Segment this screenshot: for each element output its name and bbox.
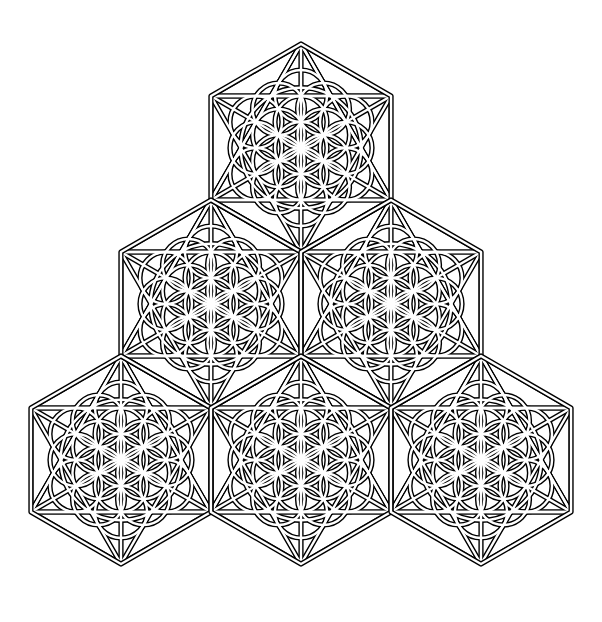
hexagon-tile-middle-left bbox=[121, 200, 301, 408]
hexagon-tile-bottom-right bbox=[391, 356, 571, 564]
geometric-pattern-canvas bbox=[0, 0, 602, 622]
hexagon-tile-bottom-left bbox=[31, 356, 211, 564]
hexagon-tile-top bbox=[211, 44, 391, 252]
hexagon-tiles bbox=[31, 44, 571, 564]
hexagon-tile-middle-right bbox=[301, 200, 481, 408]
hexagon-tile-bottom-center bbox=[211, 356, 391, 564]
